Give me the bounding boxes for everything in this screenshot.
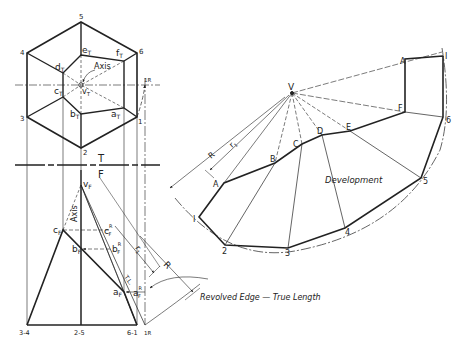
point-label-c-front: cF	[53, 225, 62, 236]
base-label-2-5: 2-5	[74, 329, 85, 337]
vertex-label-5: 5	[79, 13, 83, 21]
dev-label-E: E	[346, 123, 351, 132]
apex-label-top: vT	[82, 87, 91, 97]
label-T: T	[97, 153, 105, 164]
point-label-c-top: cT	[54, 86, 63, 97]
vertex-label-6: 6	[139, 48, 144, 56]
dev-label-I-lower: I	[193, 215, 195, 224]
true-length-label: T.L.	[123, 273, 135, 286]
vertex-label-4: 4	[20, 49, 25, 57]
base-label-1R: 1R	[144, 330, 151, 336]
vertex-label-1: 1	[138, 118, 142, 126]
axis-label-top: Axis	[94, 62, 111, 71]
top-view	[15, 22, 160, 325]
point-label-f-top: fT	[116, 48, 123, 59]
R-label-dev: R	[207, 150, 217, 161]
r1-label-front: r1	[133, 244, 145, 255]
dev-label-C: C	[293, 140, 299, 149]
pyramid-development-drawing: 5 6 1 2 3 4 eT fT dT cT bT aT vT Axis 1R…	[0, 0, 466, 346]
dev-label-3: 3	[285, 249, 290, 258]
development-labels: V A B C D E F A I 2 3 4 5 6 I Developmen…	[193, 52, 451, 258]
point-label-a-top: aT	[111, 109, 121, 120]
dev-label-F: F	[398, 104, 403, 113]
r1-label-dev: r1	[228, 138, 239, 150]
dev-label-I-upper: I	[445, 52, 447, 61]
base-label-3-4: 3-4	[19, 329, 30, 337]
folding-line: T F	[15, 153, 160, 180]
apex-label-front: vF	[83, 179, 92, 190]
revolution-arc	[137, 85, 145, 117]
revolved-label-top: 1R	[144, 77, 151, 83]
dev-label-4: 4	[345, 228, 350, 237]
revolved-label-c: cRF	[104, 223, 113, 237]
front-view-labels: vF Axis cF bF aF cRF bRF aRF r1 T.L. R 3…	[19, 179, 321, 337]
vertex-label-2: 2	[83, 149, 87, 157]
development	[170, 48, 447, 253]
dev-label-D: D	[317, 127, 323, 136]
point-label-e-top: eT	[82, 45, 92, 56]
dev-label-A-upper: A	[400, 57, 406, 66]
dev-label-B: B	[270, 155, 276, 164]
dev-label-6: 6	[446, 116, 451, 125]
label-F: F	[98, 169, 104, 180]
point-label-d-top: dT	[55, 62, 65, 73]
dev-label-A-lower: A	[213, 180, 219, 189]
point-label-b-front: bF	[72, 244, 82, 255]
dev-label-2: 2	[222, 247, 227, 256]
axis-label-front: Axis	[70, 205, 79, 222]
revolved-label-b: bRF	[112, 241, 122, 255]
vertex-label-3: 3	[20, 115, 24, 123]
apex-label-V: V	[288, 82, 295, 92]
development-title: Development	[325, 175, 383, 185]
base-label-6-1: 6-1	[127, 329, 138, 337]
revolved-edge-callout: Revolved Edge — True Length	[200, 293, 321, 302]
development-arc	[175, 48, 447, 253]
true-length-line	[81, 185, 145, 325]
development-outline	[199, 56, 443, 248]
axis-leader	[83, 70, 95, 82]
dev-label-5: 5	[423, 177, 428, 186]
